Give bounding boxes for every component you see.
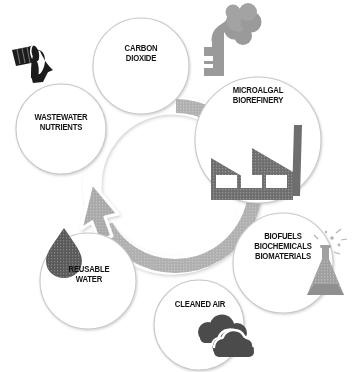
- diagram-canvas: CARBON DIOXIDE WASTEWATER NUTRIENTS MICR…: [0, 0, 355, 372]
- node-carbon-dioxide[interactable]: [93, 18, 189, 114]
- node-biofuels-biochemicals-biomaterials[interactable]: [233, 213, 333, 313]
- discharge-pipe-icon: [12, 43, 53, 83]
- smokestack-icon: [203, 3, 262, 76]
- cycle-diagram-graphic: [0, 0, 355, 372]
- node-wastewater-nutrients[interactable]: [16, 84, 106, 174]
